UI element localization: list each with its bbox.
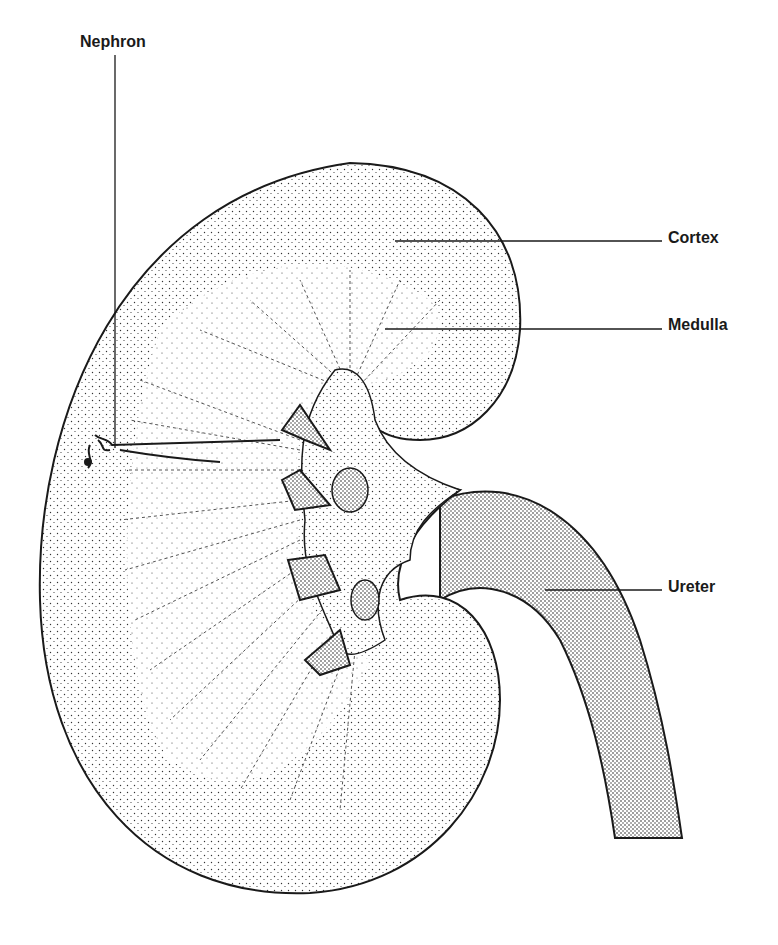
label-medulla: Medulla (668, 316, 728, 334)
glomerulus (84, 458, 92, 466)
papilla-lower (351, 580, 379, 620)
papilla-upper (332, 468, 368, 512)
kidney-diagram (0, 0, 778, 945)
label-ureter: Ureter (668, 578, 715, 596)
label-cortex: Cortex (668, 229, 719, 247)
label-nephron: Nephron (80, 33, 146, 51)
